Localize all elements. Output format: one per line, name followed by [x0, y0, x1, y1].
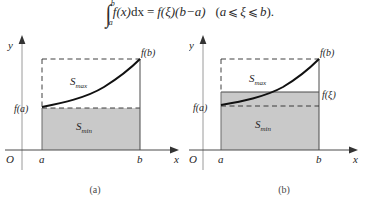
tick-label-b: b — [137, 153, 143, 165]
definite-integral-symbol: ∫ b a — [105, 1, 112, 26]
x-axis-label: x — [173, 153, 179, 165]
differential: dx — [131, 4, 144, 19]
origin-label: O — [189, 153, 197, 165]
y-axis-arrow — [200, 35, 207, 44]
function-curve — [42, 59, 140, 107]
smax-label: Smax — [249, 72, 267, 87]
condition-group: (a⩽ξ⩽b). — [216, 4, 275, 19]
figure-a-caption: (a) — [0, 184, 190, 195]
figure-b-caption: (b) — [189, 184, 379, 195]
smin-shaded-region — [221, 92, 319, 150]
origin-label: O — [6, 153, 14, 165]
less-equal-1: ⩽ — [226, 5, 240, 19]
tick-label-a: a — [39, 153, 45, 165]
x-axis-label: x — [352, 153, 358, 165]
integral-upper-limit: b — [111, 0, 115, 8]
fxi-label: f(ξ) — [322, 89, 336, 101]
equals-sign: = — [144, 4, 157, 19]
y-axis-label: y — [7, 39, 13, 51]
less-equal-2: ⩽ — [246, 5, 260, 19]
rhs-f-xi: f(ξ) — [157, 4, 175, 19]
y-axis-arrow — [19, 35, 26, 44]
figure-a-canvas: y x O a b f(a) f(b) Smax Smin — [0, 30, 190, 180]
figure-a: y x O a b f(a) f(b) Smax Smin (a) — [0, 30, 190, 197]
fb-label: f(b) — [320, 47, 335, 59]
formula-period: . — [271, 4, 274, 19]
tick-label-a: a — [218, 153, 224, 165]
integral-lower-limit: a — [109, 18, 113, 27]
fa-label: f(a) — [193, 102, 208, 114]
integrand: f(x) — [113, 4, 131, 19]
figure-b-canvas: y x O a b f(a) f(b) f(ξ) Smax Smin — [189, 30, 379, 180]
tick-label-b: b — [316, 153, 322, 165]
y-axis-label: y — [189, 39, 194, 51]
integral-mean-value-formula: ∫ b a f(x)dx=f(ξ)(b−a)(a⩽ξ⩽b). — [0, 1, 379, 26]
fa-label: f(a) — [14, 103, 29, 115]
smax-label: Smax — [70, 75, 88, 90]
rhs-b-minus-a: (b−a) — [175, 4, 205, 19]
figure-b: y x O a b f(a) f(b) f(ξ) Smax Smin (b) — [189, 30, 379, 197]
figure-page: ∫ b a f(x)dx=f(ξ)(b−a)(a⩽ξ⩽b). — [0, 0, 379, 197]
fb-label: f(b) — [141, 47, 156, 59]
